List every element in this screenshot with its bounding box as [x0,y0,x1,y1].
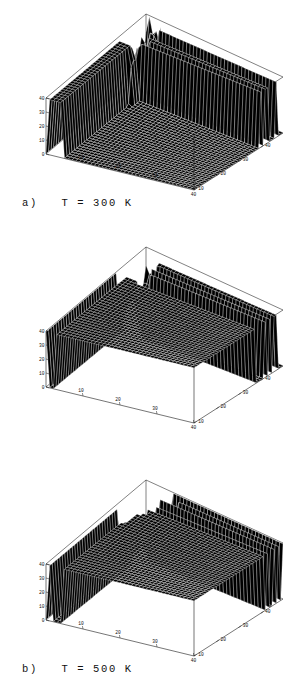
axis-tick-label: 30 [152,173,158,178]
axis-tick-label: 30 [152,639,158,644]
surface-mesh [46,16,283,189]
axis-tick-label: 40 [265,376,271,381]
surface-mesh [46,493,283,623]
surface-plot-c-canvas: 4030201001020304030201040 [0,466,305,699]
axis-tick-label: 20 [115,164,121,169]
axis-tick-label: 10 [198,652,204,657]
axis-tick-label: 20 [220,404,226,409]
surface-plot-panel-c: 4030201001020304030201040 c) T = 700 K [0,466,305,699]
axis-tick-label: 20 [39,590,45,595]
axis-tick-label: 30 [243,390,249,395]
axis-tick-label: 20 [115,630,121,635]
surface-mesh [46,263,283,388]
axis-tick-label: 20 [220,637,226,642]
axis-tick-label: 20 [115,397,121,402]
axis-tick-label: 10 [78,621,84,626]
axis-tick-label: 10 [198,419,204,424]
axis-tick-label: 10 [198,186,204,191]
axis-tick-label: 10 [78,388,84,393]
axis-tick-label: 30 [39,110,45,115]
axis-tick-label: 40 [191,192,197,197]
axis-tick-label: 30 [243,157,249,162]
axis-tick-label: 10 [39,371,45,376]
surface-plot-panel-b: 4030201001020304030201040 b) T = 500 K [0,233,305,466]
surface-plot-panel-a: 4030201001020304030201040 a) T = 300 K [0,0,305,233]
axis-tick-label: 40 [191,425,197,430]
surface-plot-b-canvas: 4030201001020304030201040 [0,233,305,466]
axis-tick-label: 40 [265,609,271,614]
axis-tick-label: 30 [39,343,45,348]
axis-tick-label: 40 [191,658,197,663]
axis-tick-label: 40 [39,329,45,334]
axis-tick-label: 20 [39,357,45,362]
panel-a-caption: a) T = 300 K [22,197,133,209]
axis-tick-label: 0 [42,152,45,157]
axis-tick-label: 40 [39,562,45,567]
axis-tick-label: 10 [39,138,45,143]
axis-tick-label: 10 [39,604,45,609]
axis-tick-label: 40 [265,143,271,148]
axis-tick-label: 30 [152,406,158,411]
axis-tick-label: 40 [39,96,45,101]
axis-tick-label: 10 [78,155,84,160]
axis-tick-label: 0 [42,618,45,623]
axis-tick-label: 30 [39,576,45,581]
axis-tick-label: 20 [39,124,45,129]
axis-tick-label: 30 [243,623,249,628]
axis-tick-label: 0 [42,385,45,390]
axis-tick-label: 20 [220,171,226,176]
